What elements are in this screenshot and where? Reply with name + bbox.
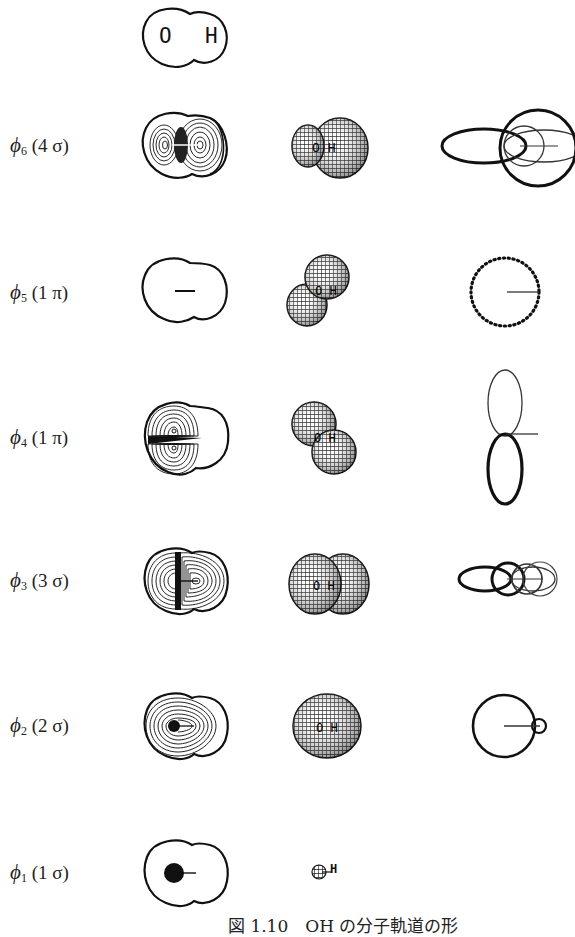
row-label-phi2: ϕ2 (2 σ) bbox=[10, 713, 69, 739]
components-phi2 bbox=[470, 690, 555, 765]
surface-3d-phi5: O H bbox=[285, 253, 355, 333]
row-label-phi3: ϕ3 (3 σ) bbox=[10, 568, 69, 594]
contour-map-phi3 bbox=[142, 545, 232, 619]
svg-text:O H: O H bbox=[315, 284, 337, 298]
row-label-phi1: ϕ1 (1 σ) bbox=[10, 860, 69, 886]
atom-o-label: O bbox=[159, 24, 172, 48]
row-label-phi6: ϕ6 (4 σ) bbox=[10, 133, 69, 159]
svg-text:O H: O H bbox=[312, 140, 335, 155]
contour-map-phi6 bbox=[140, 110, 232, 184]
surface-3d-phi3: O H bbox=[285, 548, 373, 620]
surface-3d-phi6: O H bbox=[288, 112, 368, 182]
svg-text:O H: O H bbox=[314, 431, 336, 445]
contour-map-phi2 bbox=[142, 690, 232, 764]
components-phi3 bbox=[455, 555, 565, 605]
svg-text:O H: O H bbox=[313, 579, 335, 593]
components-phi6 bbox=[440, 102, 575, 192]
components-phi4 bbox=[480, 367, 540, 507]
contour-map-phi4 bbox=[142, 400, 232, 480]
figure-caption: 図 1.10 OH の分子軌道の形 bbox=[228, 912, 458, 937]
row-label-phi4: ϕ4 (1 π) bbox=[10, 425, 68, 451]
contour-map-phi5 bbox=[140, 255, 230, 327]
row-label-phi5: ϕ5 (1 π) bbox=[10, 280, 68, 306]
svg-text:O H: O H bbox=[316, 721, 338, 735]
surface-3d-phi4: O H bbox=[290, 398, 360, 480]
components-phi5 bbox=[465, 250, 550, 335]
contour-map-phi1 bbox=[142, 837, 232, 911]
surface-3d-phi2: O H bbox=[290, 690, 365, 762]
atom-h-small-label: H bbox=[330, 862, 337, 876]
atom-h-label: H bbox=[205, 24, 218, 48]
